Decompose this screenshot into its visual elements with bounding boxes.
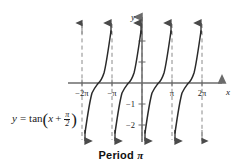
equation-lhs: y — [12, 112, 17, 124]
curve-branch-4 — [175, 31, 201, 133]
equation-arg-var: x — [48, 112, 53, 124]
x-tick-label-2pi: 2π — [198, 88, 207, 98]
tangent-function-figure: −2π −π π 2π −1 −2 y x y=tan(x+ π 2 ) Per… — [0, 0, 242, 168]
period-caption: Period π — [0, 149, 242, 161]
equation-function: tan — [29, 112, 42, 124]
close-paren-icon: ) — [71, 111, 77, 128]
graph-canvas: −2π −π π 2π −1 −2 y x — [0, 0, 242, 168]
fraction-denominator: 2 — [64, 120, 70, 128]
y-tick-labels: −1 −2 — [126, 99, 135, 130]
equation-label: y=tan(x+ π 2 ) — [12, 111, 77, 129]
equation-plus: + — [55, 112, 61, 124]
y-tick-label-minus-2: −2 — [126, 120, 135, 130]
x-axis-label: x — [225, 87, 230, 97]
open-paren-icon: ( — [43, 111, 49, 128]
x-tick-label-minus-pi: −π — [107, 88, 117, 98]
axes-group — [68, 17, 222, 142]
y-tick-label-minus-1: −1 — [126, 99, 135, 109]
x-tick-label-pi: π — [170, 88, 175, 98]
x-tick-labels: −2π −π π 2π — [75, 88, 207, 98]
curve-branch-3 — [145, 31, 171, 133]
caption-word: Period — [99, 149, 134, 161]
curve-group — [85, 31, 201, 133]
y-axis-label: y — [130, 12, 135, 22]
curve-branch-2 — [115, 31, 141, 133]
equation-fraction: π 2 — [64, 111, 70, 129]
curve-branch-1 — [85, 31, 111, 133]
caption-symbol: π — [137, 149, 143, 161]
equation-equals: = — [20, 112, 26, 124]
x-tick-label-minus-2pi: −2π — [75, 88, 89, 98]
